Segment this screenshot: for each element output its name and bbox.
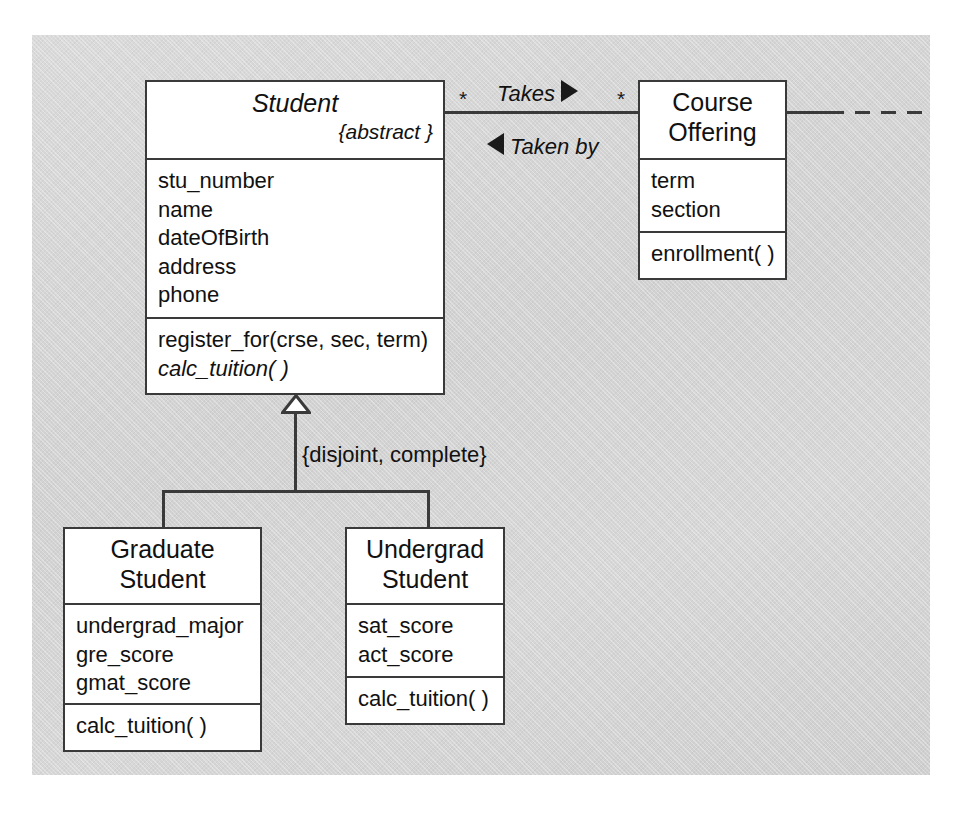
class-undergrad-student-attribute-list: sat_score act_score — [347, 605, 503, 675]
class-student-name: Student — [147, 89, 443, 119]
attribute-item: undergrad_major — [76, 612, 260, 641]
navigation-arrow-left-icon — [487, 133, 504, 155]
generalization-splitter-line — [162, 490, 430, 493]
class-graduate-student-operations-compartment: calc_tuition( ) — [65, 703, 260, 750]
attribute-item: section — [651, 196, 785, 225]
attribute-item: phone — [158, 281, 443, 310]
class-student-operations-compartment: register_for(crse, sec, term) calc_tuiti… — [147, 317, 443, 393]
class-graduate-student-attribute-list: undergrad_major gre_score gmat_score — [65, 605, 260, 703]
attribute-item: sat_score — [358, 612, 503, 641]
attribute-item: address — [158, 253, 443, 282]
class-undergrad-student-title: Undergrad Student — [347, 529, 503, 594]
attribute-item: stu_number — [158, 167, 443, 196]
class-undergrad-student-operations-compartment: calc_tuition( ) — [347, 676, 503, 723]
class-course-offering-title: Course Offering — [640, 82, 785, 147]
attribute-item: name — [158, 196, 443, 225]
generalization-constraint-label: {disjoint, complete} — [302, 444, 487, 466]
class-student-attribute-list: stu_number name dateOfBirth address phon… — [147, 160, 443, 316]
class-undergrad-student-name-line1: Undergrad — [347, 535, 503, 565]
class-course-offering-attribute-list: term section — [640, 160, 785, 230]
association-name-taken-by: Taken by — [510, 136, 598, 158]
attribute-item: act_score — [358, 641, 503, 670]
class-box-graduate-student[interactable]: Graduate Student undergrad_major gre_sco… — [63, 527, 262, 752]
class-student-title: Student — [147, 82, 443, 119]
attribute-item: term — [651, 167, 785, 196]
generalization-hollow-triangle-icon — [281, 394, 311, 414]
class-course-offering-name-compartment: Course Offering — [640, 82, 785, 158]
operation-item: enrollment( ) — [651, 240, 785, 269]
operation-item-abstract: calc_tuition( ) — [158, 355, 443, 384]
class-undergrad-student-name-compartment: Undergrad Student — [347, 529, 503, 603]
generalization-drop-line-undergrad — [427, 490, 430, 528]
class-graduate-student-name-line1: Graduate — [65, 535, 260, 565]
operation-item: calc_tuition( ) — [76, 712, 260, 741]
multiplicity-student-end: * — [459, 88, 467, 109]
class-graduate-student-operation-list: calc_tuition( ) — [65, 705, 260, 747]
navigation-arrow-right-icon — [561, 80, 578, 102]
class-box-student[interactable]: Student {abstract } stu_number name date… — [145, 80, 445, 395]
attribute-item: gre_score — [76, 641, 260, 670]
class-course-offering-name-line2: Offering — [640, 118, 785, 148]
class-box-course-offering[interactable]: Course Offering term section enrollment(… — [638, 80, 787, 280]
class-student-operation-list: register_for(crse, sec, term) calc_tuiti… — [147, 319, 443, 389]
class-box-undergrad-student[interactable]: Undergrad Student sat_score act_score ca… — [345, 527, 505, 725]
class-student-attributes-compartment: stu_number name dateOfBirth address phon… — [147, 158, 443, 317]
class-graduate-student-name-line2: Student — [65, 565, 260, 595]
diagram-canvas: * * Takes Taken by Student {abstract } s… — [0, 0, 958, 817]
class-graduate-student-name-compartment: Graduate Student — [65, 529, 260, 603]
operation-item: register_for(crse, sec, term) — [158, 326, 443, 355]
class-course-offering-operation-list: enrollment( ) — [640, 233, 785, 275]
class-undergrad-student-attributes-compartment: sat_score act_score — [347, 603, 503, 676]
generalization-drop-line-graduate — [162, 490, 165, 528]
association-line-student-course — [445, 111, 638, 114]
multiplicity-course-end: * — [617, 88, 625, 109]
attribute-item: dateOfBirth — [158, 224, 443, 253]
class-student-abstract-marker: {abstract } — [147, 120, 443, 144]
class-undergrad-student-name-line2: Student — [347, 565, 503, 595]
class-undergrad-student-operation-list: calc_tuition( ) — [347, 678, 503, 720]
association-name-takes: Takes — [497, 83, 555, 105]
operation-item: calc_tuition( ) — [358, 685, 503, 714]
class-course-offering-attributes-compartment: term section — [640, 158, 785, 231]
class-course-offering-operations-compartment: enrollment( ) — [640, 231, 785, 278]
course-offering-continuation-dashed-line — [829, 111, 927, 114]
class-graduate-student-attributes-compartment: undergrad_major gre_score gmat_score — [65, 603, 260, 703]
generalization-stem-line — [294, 411, 297, 492]
class-graduate-student-title: Graduate Student — [65, 529, 260, 594]
class-student-name-compartment: Student {abstract } — [147, 82, 443, 158]
course-offering-right-line — [787, 111, 829, 114]
class-course-offering-name-line1: Course — [640, 88, 785, 118]
attribute-item: gmat_score — [76, 669, 260, 698]
